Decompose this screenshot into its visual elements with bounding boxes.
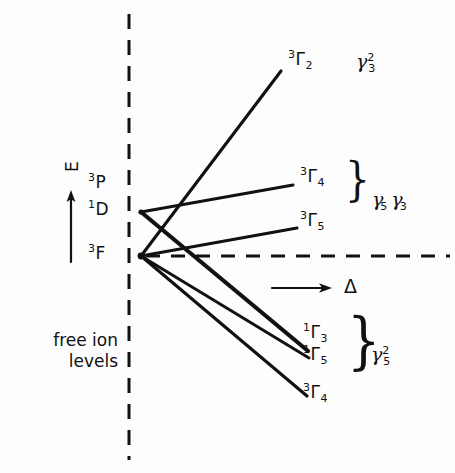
free-ion-caption: free ion levels	[10, 330, 118, 373]
split-level-1gamma3-symbol: Γ	[311, 322, 320, 342]
config-gamma5sq-sub: 5	[383, 355, 390, 368]
origin-node-1d	[138, 209, 143, 214]
split-level-3gamma4u-pre: 3	[300, 165, 307, 178]
split-level-label-3gamma4-lower: 3Γ4	[303, 382, 327, 404]
energy-axis-arrow	[67, 190, 76, 262]
split-level-3gamma4l-post: 4	[320, 392, 327, 405]
split-level-3gamma5-symbol: Γ	[308, 210, 317, 230]
split-level-label-3gamma5: 3Γ5	[300, 210, 324, 232]
crystal-field-splitting-diagram: E 3P 1D 3F free ion levels 3Γ2 3Γ4 3Γ5 1…	[0, 0, 455, 473]
split-level-label-3gamma2: 3Γ2	[288, 49, 312, 71]
config-label-gamma5-gamma3: γ5γ3	[372, 190, 407, 212]
split-level-1gamma3-post: 3	[320, 332, 327, 345]
config-gamma3sq-sub: 3	[368, 62, 375, 75]
split-level-3gamma5-pre: 3	[300, 209, 307, 222]
free-ion-caption-line1: free ion	[10, 330, 118, 351]
level-line-3gamma4-lower	[141, 256, 307, 396]
split-level-3gamma2-post: 2	[305, 59, 312, 72]
level-line-3gamma4-upper	[141, 185, 293, 212]
split-level-label-1gamma5: 1Γ5	[303, 344, 327, 366]
config-gamma3sq-base: γ	[356, 50, 367, 72]
free-ion-level-1d: 1D	[88, 199, 109, 218]
split-level-label-3gamma4-upper: 3Γ4	[300, 166, 324, 188]
config-gamma5-sub: 5	[380, 200, 387, 213]
split-level-3gamma4l-pre: 3	[303, 381, 310, 394]
split-level-3gamma2-pre: 3	[288, 48, 295, 61]
split-level-3gamma5-post: 5	[317, 220, 324, 233]
split-level-1gamma5-post: 5	[320, 354, 327, 367]
free-ion-level-3p-symbol: P	[96, 172, 106, 192]
split-level-3gamma2-symbol: Γ	[296, 49, 305, 69]
split-level-1gamma5-pre: 1	[303, 343, 310, 356]
config-label-gamma3-squared: γ23	[356, 52, 375, 74]
level-line-1gamma3	[141, 212, 308, 351]
free-ion-level-3p-pre: 3	[88, 171, 95, 184]
free-ion-level-1d-pre: 1	[88, 198, 95, 211]
free-ion-level-3f: 3F	[88, 243, 105, 262]
split-level-1gamma3-pre: 1	[303, 321, 310, 334]
splitting-axis-arrow	[272, 283, 332, 293]
origin-node-3f	[138, 253, 145, 260]
config-label-gamma5-squared: γ25	[371, 345, 390, 367]
split-level-3gamma4u-post: 4	[317, 176, 324, 189]
split-level-1gamma5-symbol: Γ	[311, 344, 320, 364]
free-ion-level-3p: 3P	[88, 172, 106, 191]
config-gamma5sq-base: γ	[371, 343, 382, 365]
free-ion-caption-line2: levels	[10, 351, 118, 372]
split-level-3gamma4l-symbol: Γ	[311, 382, 320, 402]
config-gamma3-sub: 3	[400, 200, 407, 213]
energy-axis-label: E	[64, 155, 81, 179]
diagram-canvas	[0, 0, 455, 473]
free-ion-level-1d-symbol: D	[96, 199, 109, 219]
brace-upper-group: }	[345, 156, 370, 202]
level-line-1gamma5	[141, 256, 309, 358]
free-ion-level-3f-symbol: F	[96, 243, 106, 263]
splitting-axis-label: Δ	[344, 277, 357, 296]
free-ion-level-3f-pre: 3	[88, 242, 95, 255]
split-level-3gamma4u-symbol: Γ	[308, 166, 317, 186]
split-level-label-1gamma3: 1Γ3	[303, 322, 327, 344]
